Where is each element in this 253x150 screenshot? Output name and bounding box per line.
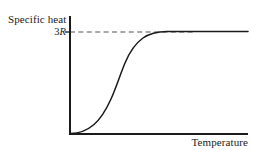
tick-symbol-gas-constant: R — [59, 26, 66, 37]
specific-heat-curve — [71, 32, 249, 134]
y-axis-label: Specific heat — [8, 13, 66, 25]
x-axis-label: Temperature — [191, 136, 248, 148]
specific-heat-chart: Specific heat Temperature 3R — [0, 0, 253, 150]
y-axis-tick-label-3r: 3R — [44, 26, 66, 38]
